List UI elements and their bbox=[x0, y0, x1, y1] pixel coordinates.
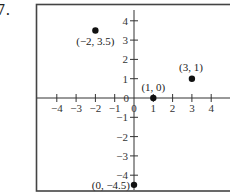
x-tick-label: 2 bbox=[170, 102, 176, 114]
x-tick-label: 4 bbox=[208, 102, 214, 114]
y-tick-label: 3 bbox=[123, 34, 129, 46]
data-point bbox=[189, 76, 195, 82]
point-label: (−2, 3.5) bbox=[76, 35, 115, 48]
y-tick-label: 4 bbox=[123, 15, 129, 27]
point-label: (0, −4.5) bbox=[92, 179, 131, 192]
x-tick-label: 0 bbox=[131, 102, 137, 114]
y-tick-label: −3 bbox=[116, 150, 128, 162]
data-point bbox=[92, 27, 98, 33]
y-tick-label: 0 bbox=[124, 92, 130, 104]
coordinate-plane: −4−3−2−10123443210−1−2−3−4(−2, 3.5)(1, 0… bbox=[0, 0, 230, 196]
x-tick-label: −3 bbox=[70, 102, 82, 114]
y-tick-label: −1 bbox=[116, 111, 128, 123]
y-tick-label: 2 bbox=[123, 53, 129, 65]
data-point bbox=[131, 182, 137, 188]
y-tick-label: −2 bbox=[116, 131, 128, 143]
point-label: (3, 1) bbox=[179, 61, 203, 74]
data-point bbox=[150, 95, 156, 101]
y-tick-label: 1 bbox=[123, 73, 129, 85]
x-tick-label: −4 bbox=[51, 102, 63, 114]
x-tick-label: −2 bbox=[90, 102, 102, 114]
x-tick-label: 3 bbox=[189, 102, 195, 114]
x-tick-label: 1 bbox=[151, 102, 157, 114]
point-label: (1, 0) bbox=[141, 81, 165, 94]
